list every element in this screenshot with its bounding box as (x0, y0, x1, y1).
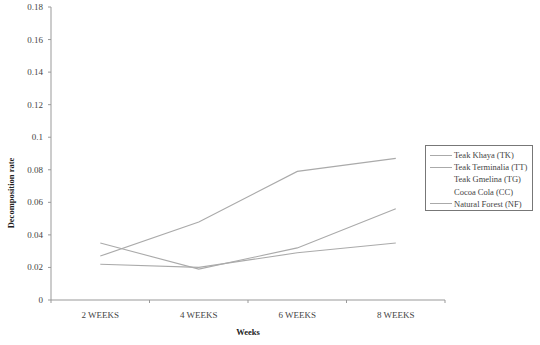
legend-item: Natural Forest (NF) (430, 198, 528, 210)
legend-swatch (430, 155, 452, 156)
y-tick-label: 0.02 (27, 262, 43, 272)
x-tick-label: 6 WEEKS (278, 310, 316, 320)
y-tick-label: 0.1 (32, 132, 43, 142)
legend-label: Natural Forest (NF) (454, 199, 522, 209)
legend-label: Teak Terminalia (TT) (454, 162, 527, 172)
x-tick-label: 4 WEEKS (180, 310, 218, 320)
x-tick-label: 8 WEEKS (377, 310, 415, 320)
y-tick-label: 0.16 (27, 35, 43, 45)
y-tick-label: 0.04 (27, 230, 43, 240)
legend-label: Cocoa Cola (CC) (454, 187, 513, 197)
y-tick-label: 0.14 (27, 67, 43, 77)
legend-label: Teak Gmelina (TG) (454, 174, 521, 184)
y-tick-label: 0.12 (27, 100, 43, 110)
y-tick-label: 0.08 (27, 165, 43, 175)
legend-item: Teak Khaya (TK) (430, 149, 528, 161)
y-axis-title: Decomposition rate (6, 157, 16, 228)
x-axis: 2 WEEKS4 WEEKS6 WEEKS8 WEEKS (51, 300, 445, 320)
x-tick-label: 2 WEEKS (81, 310, 119, 320)
legend-swatch (430, 179, 452, 180)
legend-item: Teak Gmelina (TG) (430, 173, 528, 185)
series-line-0 (100, 158, 396, 256)
y-axis: 00.020.040.060.080.10.120.140.160.18 (27, 2, 51, 305)
plot-lines (100, 158, 396, 269)
legend: Teak Khaya (TK)Teak Terminalia (TT)Teak … (425, 145, 533, 211)
legend-item: Teak Terminalia (TT) (430, 161, 528, 173)
y-tick-label: 0 (39, 295, 44, 305)
legend-swatch (430, 167, 452, 168)
legend-item: Cocoa Cola (CC) (430, 186, 528, 198)
legend-swatch (430, 203, 452, 204)
x-axis-title: Weeks (236, 327, 260, 337)
legend-label: Teak Khaya (TK) (454, 150, 514, 160)
y-tick-label: 0.18 (27, 2, 43, 12)
y-tick-label: 0.06 (27, 197, 43, 207)
legend-swatch (430, 191, 452, 192)
